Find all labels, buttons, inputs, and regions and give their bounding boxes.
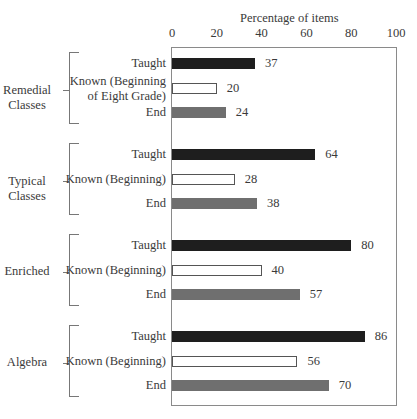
category-label: End <box>146 196 166 211</box>
bar-known <box>172 83 217 94</box>
category-label: Known (Beginning) <box>66 263 166 278</box>
group-label-line: Classes <box>0 98 62 113</box>
plot-area <box>171 47 397 406</box>
bar-taught <box>172 331 365 342</box>
bar-value-label: 24 <box>236 105 249 120</box>
bar-value-label: 40 <box>272 263 285 278</box>
bar-value-label: 86 <box>375 329 388 344</box>
group-label-line: Algebra <box>0 355 62 370</box>
category-label: Taught <box>131 329 166 344</box>
bar-value-label: 80 <box>361 238 374 253</box>
category-label: Taught <box>131 56 166 71</box>
x-tick-label: 40 <box>255 26 268 41</box>
x-tick-label: 20 <box>211 26 224 41</box>
group-label: RemedialClasses <box>0 83 62 113</box>
x-tick-label: 100 <box>387 26 406 41</box>
bar-taught <box>172 240 351 251</box>
group-bracket-tick <box>63 90 69 91</box>
bar-known <box>172 174 235 185</box>
bar-value-label: 20 <box>227 81 240 96</box>
bar-value-label: 64 <box>325 147 338 162</box>
category-label-line: Known (Beginning <box>70 74 166 89</box>
bar-value-label: 57 <box>310 287 323 302</box>
category-label-line: Taught <box>131 56 166 71</box>
bar-value-label: 37 <box>265 56 278 71</box>
category-label: Taught <box>131 238 166 253</box>
category-label-line: End <box>146 287 166 302</box>
bar-known <box>172 265 262 276</box>
category-label: Known (Beginning) <box>66 172 166 187</box>
category-label: End <box>146 287 166 302</box>
group-label-line: Enriched <box>0 264 62 279</box>
bar-taught <box>172 149 315 160</box>
category-label: End <box>146 105 166 120</box>
bar-value-label: 28 <box>245 172 258 187</box>
bar-known <box>172 356 297 367</box>
category-label-line: End <box>146 196 166 211</box>
group-label: Algebra <box>0 355 62 370</box>
category-label-line: Taught <box>131 147 166 162</box>
category-label: End <box>146 378 166 393</box>
bar-end <box>172 380 329 391</box>
bar-value-label: 38 <box>267 196 280 211</box>
category-label-line: Known (Beginning) <box>66 354 166 369</box>
bar-value-label: 70 <box>339 378 352 393</box>
group-label: TypicalClasses <box>0 174 62 204</box>
x-tick-label: 60 <box>300 26 313 41</box>
category-label: Known (Beginningof Eight Grade) <box>70 74 166 104</box>
group-label-line: Classes <box>0 189 62 204</box>
x-axis-title: Percentage of items <box>240 11 339 26</box>
bar-end <box>172 289 300 300</box>
x-tick-label: 80 <box>345 26 358 41</box>
bar-taught <box>172 58 255 69</box>
category-label-line: Known (Beginning) <box>66 263 166 278</box>
bar-end <box>172 198 257 209</box>
category-label-line: Taught <box>131 238 166 253</box>
category-label: Taught <box>131 147 166 162</box>
category-label-line: of Eight Grade) <box>70 89 166 104</box>
category-label-line: Known (Beginning) <box>66 172 166 187</box>
x-tick-label: 0 <box>169 26 175 41</box>
category-label-line: End <box>146 378 166 393</box>
category-label: Known (Beginning) <box>66 354 166 369</box>
group-label-line: Remedial <box>0 83 62 98</box>
category-label-line: Taught <box>131 329 166 344</box>
group-label-line: Typical <box>0 174 62 189</box>
group-label: Enriched <box>0 264 62 279</box>
bar-value-label: 56 <box>307 354 320 369</box>
category-label-line: End <box>146 105 166 120</box>
bar-end <box>172 107 226 118</box>
